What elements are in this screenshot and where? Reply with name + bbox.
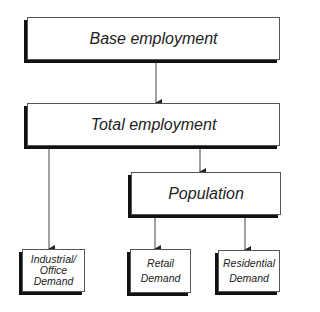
population-box: Population <box>131 172 281 215</box>
retail-demand-box: Retail Demand <box>130 249 191 293</box>
residential-demand-box: Residential Demand <box>218 250 280 292</box>
population-label: Population <box>168 185 244 203</box>
industrial-office-demand-line-3: Demand <box>34 276 74 287</box>
residential-demand-line-2: Demand <box>229 273 269 284</box>
total-employment-label: Total employment <box>91 116 217 134</box>
industrial-office-demand-box: Industrial/ Office Demand <box>22 249 85 292</box>
retail-demand-line-2: Demand <box>141 273 181 284</box>
residential-demand-line-1: Residential <box>223 258 275 269</box>
retail-demand-line-1: Retail <box>147 258 174 269</box>
base-employment-label: Base employment <box>89 30 217 48</box>
base-employment-box: Base employment <box>27 17 280 60</box>
total-employment-box: Total employment <box>27 103 280 146</box>
